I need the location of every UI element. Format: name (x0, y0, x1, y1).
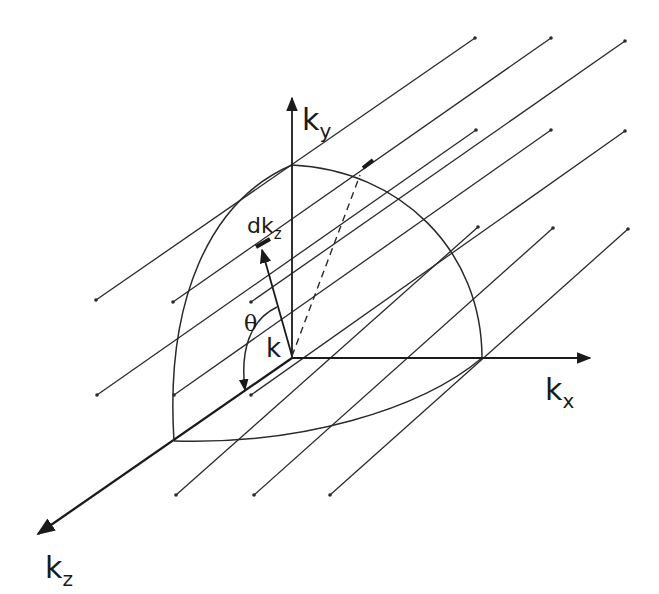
theta-label: θ (244, 311, 257, 336)
ky-label: ky (302, 102, 331, 143)
kx-label: kx (545, 372, 574, 413)
kz-label: kz (45, 550, 73, 591)
axes (38, 98, 590, 534)
line-endpoint-dots (94, 36, 630, 497)
k-space-diagram: ky kx kz dkz k θ (0, 0, 659, 594)
parallel-lines (96, 38, 628, 495)
arc-ky-kx (292, 165, 482, 358)
k-label: k (266, 333, 281, 363)
dashed-projection (292, 160, 373, 356)
kz-axis (38, 358, 292, 534)
